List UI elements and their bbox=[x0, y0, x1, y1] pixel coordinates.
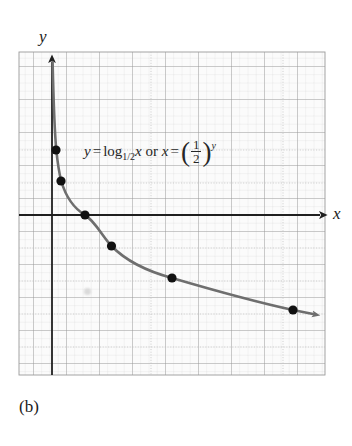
equation-annotation: y=log1/2x or x=(12)y bbox=[84, 139, 216, 167]
fraction-numerator: 1 bbox=[191, 138, 202, 151]
graph-canvas bbox=[0, 0, 352, 446]
paper-smudge bbox=[84, 288, 91, 295]
equation-rhs-var: x bbox=[162, 143, 169, 159]
y-axis-label: y bbox=[39, 28, 47, 45]
equation-paren-open: ( bbox=[181, 144, 190, 161]
equation-equals: = bbox=[93, 143, 101, 159]
equation-log-argument: x bbox=[135, 143, 142, 159]
equation-paren-close: ) bbox=[202, 144, 211, 161]
x-axis-label: x bbox=[333, 205, 341, 222]
data-point bbox=[80, 210, 89, 219]
grid-background bbox=[19, 52, 325, 375]
fraction-denominator: 2 bbox=[191, 151, 202, 165]
equation-fraction: 12 bbox=[191, 138, 202, 166]
equation-exponent: y bbox=[211, 140, 215, 151]
equation-lhs-var: y bbox=[84, 143, 91, 159]
data-point bbox=[167, 273, 176, 282]
equation-log-name: log bbox=[103, 143, 122, 159]
equation-log-base: 1/2 bbox=[122, 151, 135, 162]
data-point bbox=[56, 176, 65, 185]
figure-panel: y x y=log1/2x or x=(12)y (b) bbox=[0, 0, 352, 446]
equation-equals-2: = bbox=[170, 143, 178, 159]
data-point bbox=[288, 305, 297, 314]
equation-conjunction: or bbox=[146, 143, 159, 159]
data-point bbox=[51, 145, 60, 154]
data-point bbox=[107, 241, 116, 250]
figure-caption: (b) bbox=[19, 398, 39, 415]
